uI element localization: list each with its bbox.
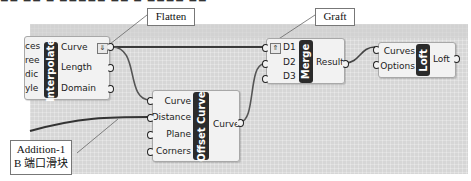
offset-curve-component[interactable]: Curve Distance Plane Corners Offset Curv… [152, 90, 240, 162]
merge-nickname: Merge [299, 40, 313, 83]
merge-result-output-port[interactable] [342, 60, 349, 68]
addition-callout-line2: B 端口滑块 [11, 156, 71, 170]
interpolate-length-output-port[interactable] [107, 64, 114, 72]
offset-curve-nickname: Offset Curve [193, 92, 209, 160]
interpolate-domain-output-port[interactable] [107, 85, 114, 93]
loft-component[interactable]: Curves Options Loft Loft [378, 42, 456, 78]
loft-output-port[interactable] [453, 55, 460, 63]
addition-callout-line1: Addition-1 [11, 142, 71, 156]
input-d2-label: D2 [283, 57, 296, 67]
clipped-caption-text: ▬▬ ▬▬ ▬ ▬▬▬▬▬ ▬▬ ▬ ▬▬▬▬ ▬▬ [0, 0, 471, 3]
output-loft-label: Loft [433, 54, 450, 64]
graft-callout-text: Graft [323, 10, 346, 22]
loft-curves-input-port[interactable] [373, 46, 380, 54]
offset-distance-input-port[interactable] [147, 114, 154, 122]
offset-plane-input-port[interactable] [147, 131, 154, 139]
input-curve-label: Curve [164, 96, 191, 106]
merge-d1-input-port[interactable] [262, 44, 269, 52]
offset-curve-input-port[interactable] [147, 97, 154, 105]
graft-modifier-icon[interactable]: ⇑ [270, 43, 281, 54]
output-domain-label: Domain [61, 83, 96, 93]
output-curve-label: Curve [213, 119, 240, 129]
input-label-4: yle [25, 83, 38, 93]
merge-component[interactable]: ⇑ D1 D2 D3 Merge Result [266, 38, 345, 84]
input-curves-label: Curves [384, 46, 415, 56]
offset-corners-input-port[interactable] [147, 148, 154, 156]
merge-d3-input-port[interactable] [262, 75, 269, 83]
merge-d2-input-port[interactable] [262, 60, 269, 68]
offset-curve-output-port[interactable] [237, 119, 244, 127]
interpolate-curve-output-port[interactable] [107, 43, 114, 51]
input-label-3: dic [25, 69, 38, 79]
interpolate-nickname: Interpolate [44, 42, 58, 98]
input-d3-label: D3 [283, 71, 296, 81]
flatten-callout-text: Flatten [156, 10, 187, 22]
loft-nickname: Loft [416, 44, 430, 76]
graft-callout: Graft [315, 8, 355, 26]
output-length-label: Length [61, 62, 92, 72]
input-distance-label: Distance [152, 112, 191, 122]
input-options-label: Options [380, 61, 415, 71]
interpolate-component[interactable]: ces ree dic yle Interpolate Curve Length… [24, 36, 110, 100]
input-label-1: ces [25, 41, 40, 51]
output-curve-label: Curve [61, 42, 88, 52]
flatten-callout: Flatten [147, 8, 195, 26]
input-corners-label: Corners [156, 146, 191, 156]
input-label-2: ree [25, 55, 40, 65]
loft-options-input-port[interactable] [373, 61, 380, 69]
input-d1-label: D1 [283, 42, 296, 52]
addition-callout: Addition-1 B 端口滑块 [10, 140, 72, 175]
output-result-label: Result [316, 57, 344, 67]
input-plane-label: Plane [166, 129, 191, 139]
